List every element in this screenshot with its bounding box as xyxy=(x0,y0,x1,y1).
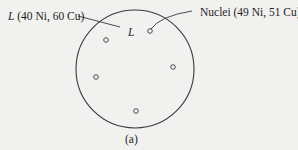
liquid-label: L (40 Ni, 60 Cu) xyxy=(7,10,85,23)
liquid-region-circle xyxy=(76,10,194,128)
liquid-inner-label: L xyxy=(127,26,134,38)
nucleus xyxy=(148,29,153,34)
figure-caption: (a) xyxy=(125,133,138,146)
solidification-diagram: L (40 Ni, 60 Cu) L Nuclei (49 Ni, 51 Cu)… xyxy=(0,0,298,150)
nucleus xyxy=(104,38,109,43)
nuclei-label: Nuclei (49 Ni, 51 Cu) xyxy=(200,6,298,19)
nucleus xyxy=(134,109,139,114)
nucleus xyxy=(94,75,99,80)
phase-diagram-figure: L (40 Ni, 60 Cu) L Nuclei (49 Ni, 51 Cu)… xyxy=(0,0,298,150)
nuclei-leader-line xyxy=(151,11,192,29)
nucleus xyxy=(171,65,176,70)
